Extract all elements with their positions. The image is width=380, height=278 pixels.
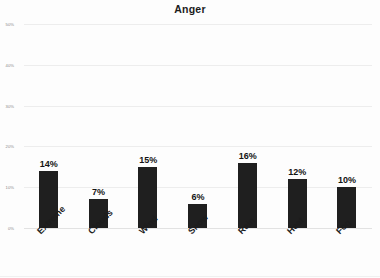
gridline: 50% [24, 24, 372, 25]
bar-value-label: 14% [24, 159, 74, 169]
y-tick-label: 20% [0, 144, 14, 149]
gridline: 30% [24, 106, 372, 107]
bar-value-label: 7% [74, 187, 124, 197]
bar-value-label: 12% [273, 167, 323, 177]
bottom-divider [0, 276, 380, 277]
gridline: 20% [24, 146, 372, 147]
y-tick-label: 30% [0, 103, 14, 108]
bar-value-label: 16% [223, 151, 273, 161]
bar-value-label: 10% [322, 175, 372, 185]
chart-title: Anger [0, 3, 380, 15]
y-tick-label: 10% [0, 185, 14, 190]
bar-value-label: 15% [123, 155, 173, 165]
y-tick-label: 50% [0, 22, 14, 27]
y-tick-label: 0% [0, 226, 14, 231]
bar-chart: Anger 50% 40% 30% 20% 10% 0% 14% 7% [0, 0, 380, 278]
x-axis-labels: Extreme Clouds Wind Snow Rain Heat Fog [24, 229, 372, 278]
gridline: 40% [24, 65, 372, 66]
y-tick-label: 40% [0, 62, 14, 67]
